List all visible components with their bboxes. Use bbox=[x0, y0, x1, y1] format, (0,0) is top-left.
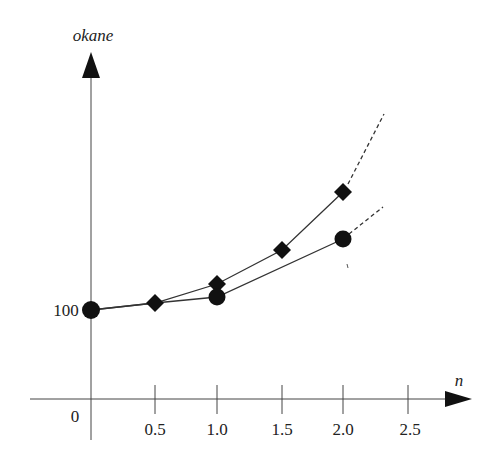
marker-diamond-0.5 bbox=[146, 294, 164, 312]
x-axis-label: n bbox=[455, 371, 464, 390]
x-axis-arrow-icon bbox=[445, 391, 472, 407]
y-axis-label: okane bbox=[73, 26, 114, 45]
series-circle-extrapolation bbox=[349, 207, 383, 234]
y-tick-100: 100 bbox=[53, 301, 79, 320]
x-tick-0.5: 0.5 bbox=[144, 420, 165, 439]
x-tick-2.5: 2.5 bbox=[399, 420, 420, 439]
x-tick-1.0: 1.0 bbox=[206, 420, 227, 439]
stray-mark bbox=[347, 264, 348, 268]
marker-circle-0 bbox=[82, 301, 100, 319]
origin-label: 0 bbox=[71, 407, 80, 426]
series-diamond-extrapolation bbox=[348, 114, 384, 184]
marker-circle-2.0 bbox=[335, 231, 352, 248]
chart: 0 100 0.5 1.0 1.5 2.0 2.5 okane n bbox=[0, 0, 497, 469]
y-axis-arrow-icon bbox=[82, 52, 100, 78]
marker-circle-1.0 bbox=[209, 289, 226, 306]
x-tick-1.5: 1.5 bbox=[271, 420, 292, 439]
x-tick-2.0: 2.0 bbox=[332, 420, 353, 439]
